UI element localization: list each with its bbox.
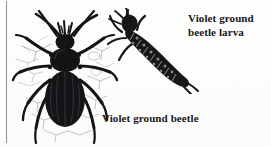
violet-ground-beetle-larva-illustration	[104, 8, 200, 94]
mouthparts	[58, 21, 72, 35]
figure-plate: Violet ground beetle larva Violet ground…	[0, 0, 271, 147]
caption-violet-ground-beetle-larva: Violet ground beetle larva	[188, 12, 254, 39]
larva-body	[108, 8, 198, 94]
vertical-rule-icon	[6, 1, 7, 143]
pronotum	[50, 48, 80, 72]
head	[56, 34, 75, 50]
caption-violet-ground-beetle: Violet ground beetle	[102, 112, 199, 125]
legs-left	[13, 35, 52, 143]
antennae	[36, 11, 97, 36]
